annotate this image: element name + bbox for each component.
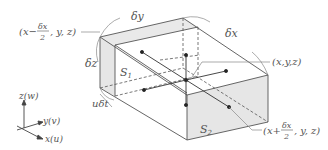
- label-udt: uδt: [92, 98, 109, 109]
- label-right-point-close: , y, z): [294, 125, 320, 136]
- label-right-point-open: (x+: [263, 125, 281, 136]
- label-left-point: (x−: [19, 26, 37, 37]
- label-right-point-num: δx: [282, 121, 292, 130]
- label-right-point-den: 2: [283, 132, 289, 141]
- axis-label-y: y(v): [42, 116, 61, 126]
- label-left-point-den: 2: [39, 33, 45, 42]
- axis-label-x: x(u): [45, 134, 63, 144]
- label-left-point-close: , y, z): [50, 26, 76, 37]
- axis-triad: [17, 100, 43, 139]
- label-dx: δx: [225, 27, 239, 40]
- control-volume-diagram: (x− δx 2 , y, z) δy δx δz (x,y,z) uδt S1…: [0, 0, 328, 150]
- label-dz: δz: [85, 57, 98, 70]
- label-dy: δy: [131, 10, 145, 23]
- center-point-vectors: [140, 50, 230, 108]
- label-left-point-num: δx: [38, 22, 48, 31]
- axis-label-z: z(w): [18, 91, 39, 101]
- label-s1: S1: [120, 66, 132, 80]
- label-center-point: (x,y,z): [272, 56, 301, 67]
